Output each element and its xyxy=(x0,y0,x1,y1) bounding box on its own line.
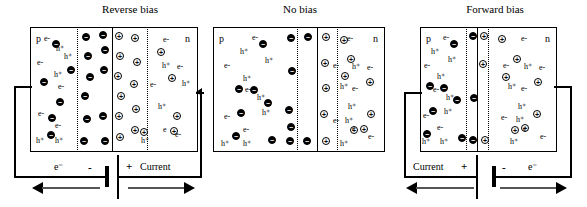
carrier-text-label-n: e- xyxy=(540,133,546,141)
hole-carrier: + xyxy=(115,32,123,40)
electron-carrier: − xyxy=(288,67,296,75)
carrier-text-label-n: h⁺ xyxy=(516,116,524,124)
carrier-text-label-n: e xyxy=(523,125,527,133)
electron-carrier: − xyxy=(458,134,466,142)
carrier-text-label-p: h⁺ xyxy=(64,53,72,61)
panel-title-no-bias: No bias xyxy=(240,3,360,15)
depletion-boundary-p-forward xyxy=(466,27,467,152)
hole-carrier: + xyxy=(131,126,139,134)
carrier-text-label-p: h⁺ xyxy=(36,137,44,145)
electron-carrier: − xyxy=(453,96,461,104)
n-region-label-nobias: n xyxy=(373,34,378,44)
electron-carrier: − xyxy=(264,99,272,107)
electron-carrier: − xyxy=(82,33,90,41)
hole-carrier: + xyxy=(132,105,140,113)
hole-carrier: + xyxy=(341,72,349,80)
hole-carrier: + xyxy=(115,112,123,120)
electron-carrier: − xyxy=(237,109,245,117)
electron-carrier: − xyxy=(268,136,276,144)
carrier-text-label-n: e- xyxy=(539,64,545,72)
electron-carrier: − xyxy=(450,40,458,48)
electron-carrier: − xyxy=(101,46,109,54)
wire-bottom-right-forward xyxy=(494,176,572,178)
electron-carrier: − xyxy=(286,137,294,145)
panel-title-reverse-bias: Reverse bias xyxy=(60,3,200,15)
carrier-text-label-n: e- xyxy=(503,62,509,70)
hole-carrier: + xyxy=(320,110,328,118)
carrier-text-label-p: e- xyxy=(433,86,439,94)
carrier-text-label-p: h⁺ xyxy=(437,73,445,81)
hole-carrier: + xyxy=(116,52,124,60)
carrier-text-label-p: e- xyxy=(224,113,230,121)
carrier-text-label-p: e- xyxy=(423,112,429,120)
electron-carrier: − xyxy=(80,137,88,145)
electron-carrier: − xyxy=(100,66,108,74)
electron-carrier: − xyxy=(287,123,295,131)
carrier-text-label-p: h⁺ xyxy=(221,140,229,148)
wire-left-vertical-forward xyxy=(404,92,406,178)
carrier-text-label-p: h⁺ xyxy=(446,94,454,102)
carrier-text-label-p: e- xyxy=(224,62,230,70)
wire-top-left-reverse xyxy=(14,86,32,88)
carrier-text-label-n: h⁺ xyxy=(508,83,516,91)
wire-left-vertical-reverse xyxy=(14,86,16,178)
electron-carrier: − xyxy=(429,107,437,115)
carrier-text-label-p: h⁺ xyxy=(422,138,430,146)
carrier-text-label-n: h⁺ xyxy=(340,140,348,148)
depletion-boundary-n-forward xyxy=(488,27,489,152)
hole-carrier: + xyxy=(534,78,542,86)
carrier-text-label-n: e- xyxy=(333,62,339,70)
hole-carrier: + xyxy=(511,126,519,134)
figure-canvas: Reverse bias p n e⁻ - + Current No bi xyxy=(0,0,587,207)
electron-carrier: − xyxy=(285,106,293,114)
electron-carrier: − xyxy=(304,33,312,41)
carrier-text-label-n: e xyxy=(352,125,356,133)
carrier-text-label-n: e- xyxy=(521,85,527,93)
hole-carrier: + xyxy=(157,48,165,56)
carrier-text-label-n: e- xyxy=(175,131,181,139)
current-arrow-right-forward xyxy=(500,182,570,194)
current-label-reverse: Current xyxy=(140,162,171,172)
hole-carrier: + xyxy=(502,73,510,81)
wire-top-left-forward xyxy=(404,92,422,94)
carrier-text-label-p: e- xyxy=(245,86,251,94)
hole-carrier: + xyxy=(360,125,368,133)
hole-carrier: + xyxy=(322,33,330,41)
carrier-text-label-n: e- xyxy=(333,117,339,125)
depletion-boundary-n-nobias xyxy=(337,27,338,152)
electron-carrier: − xyxy=(67,66,75,74)
electron-label-forward: e⁻ xyxy=(528,162,537,172)
carrier-text-label-n: h⁺ xyxy=(510,138,518,146)
depletion-boundary-p-reverse xyxy=(77,27,78,152)
n-region-label-forward: n xyxy=(545,34,550,44)
carrier-text-label-n: e- xyxy=(347,35,353,43)
electron-carrier: − xyxy=(470,94,478,102)
current-arrow-left-forward xyxy=(406,182,476,194)
hole-carrier: + xyxy=(168,74,176,82)
wire-bottom-left-forward xyxy=(404,176,476,178)
hole-carrier: + xyxy=(498,35,506,43)
junction-line-reverse xyxy=(112,27,113,152)
carrier-text-label-p: e- xyxy=(424,62,430,70)
battery-plus-sign-forward: + xyxy=(461,161,467,172)
panel-title-forward-bias: Forward bias xyxy=(425,3,565,15)
wire-top-right-reverse xyxy=(196,92,204,94)
depletion-boundary-p-nobias xyxy=(297,27,298,152)
battery-positive-plate-forward xyxy=(476,155,478,199)
carrier-text-label-n: e- xyxy=(367,64,373,72)
battery-negative-plate-reverse xyxy=(105,166,109,187)
carrier-text-label-p: e- xyxy=(55,122,61,130)
carrier-text-label-p: e- xyxy=(37,59,43,67)
hole-carrier: + xyxy=(322,137,330,145)
carrier-text-label-p: e- xyxy=(437,124,443,132)
hole-carrier: + xyxy=(480,32,488,40)
carrier-text-label-n: h⁺ xyxy=(141,137,149,145)
carrier-text-label-n: h⁺ xyxy=(348,103,356,111)
carrier-text-label-p: h⁺ xyxy=(440,138,448,146)
carrier-text-label-p: h⁺ xyxy=(257,94,265,102)
carrier-text-label-p: e- xyxy=(252,34,258,42)
battery-plus-sign-reverse: + xyxy=(126,161,132,172)
electron-carrier: − xyxy=(83,115,91,123)
carrier-text-label-p: h⁺ xyxy=(240,48,248,56)
carrier-text-label-n: e- xyxy=(352,85,358,93)
